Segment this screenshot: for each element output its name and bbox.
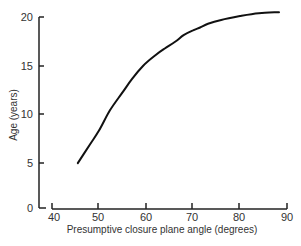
data-curve (78, 12, 279, 163)
x-tick-70: 70 (186, 211, 198, 223)
y-tick-15: 15 (21, 60, 33, 72)
y-axis-label: Age (years) (8, 89, 19, 141)
y-tick-0: 0 (27, 202, 33, 214)
y-tick-10: 10 (21, 108, 33, 120)
x-tick-90: 90 (281, 211, 293, 223)
y-tick-5: 5 (27, 157, 33, 169)
y-tick-20: 20 (21, 11, 33, 23)
y-axis: 20 15 10 5 0 Age (years) (8, 11, 46, 214)
x-axis: 40 50 60 70 80 90 Presumptive closure pl… (48, 203, 293, 235)
x-tick-60: 60 (140, 211, 152, 223)
x-tick-50: 50 (92, 211, 104, 223)
x-tick-80: 80 (233, 211, 245, 223)
chart: 20 15 10 5 0 Age (years) 40 50 60 70 80 … (0, 0, 301, 246)
x-tick-40: 40 (48, 211, 60, 223)
x-axis-label: Presumptive closure plane angle (degrees… (67, 224, 258, 235)
